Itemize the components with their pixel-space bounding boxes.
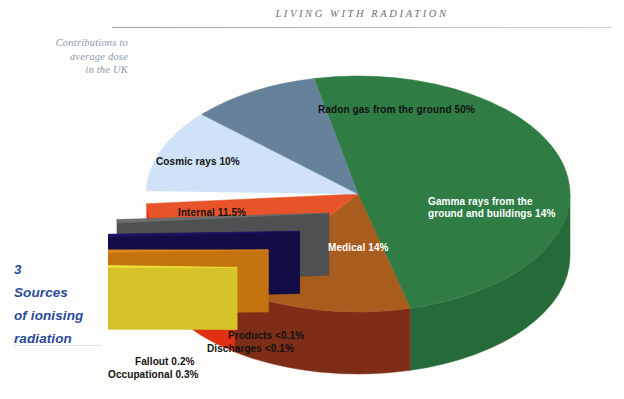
slice-label-occupational: Occupational 0.3% <box>108 369 199 381</box>
slice-label-discharges: Discharges <0.1% <box>207 343 294 355</box>
pie-chart: Radon gas from the ground 50% Gamma rays… <box>108 44 624 394</box>
chapter-rule <box>14 345 102 346</box>
page-canvas: LIVING WITH RADIATION Contributions to a… <box>0 0 624 399</box>
slice-label-medical: Medical 14% <box>328 242 389 254</box>
slice-label-radon: Radon gas from the ground 50% <box>318 104 475 116</box>
slice-label-internal: Internal 11.5% <box>178 207 246 219</box>
slice-label-gamma-line1: Gamma rays from the <box>428 196 533 208</box>
slice-label-fallout: Fallout 0.2% <box>135 356 195 368</box>
running-head-rule <box>112 27 612 28</box>
running-head: LIVING WITH RADIATION <box>112 8 612 19</box>
slice-label-products: Products <0.1% <box>228 330 304 342</box>
slice-label-cosmic: Cosmic rays 10% <box>156 156 240 168</box>
slice-label-gamma-line2: ground and buildings 14% <box>428 208 555 220</box>
